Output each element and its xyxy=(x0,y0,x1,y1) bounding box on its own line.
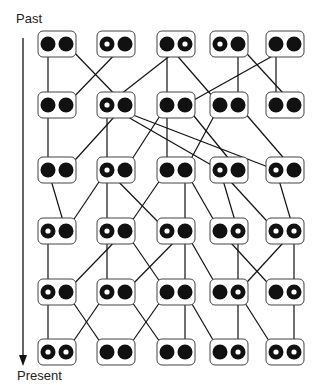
filled-dot-icon xyxy=(178,345,193,360)
filled-dot-icon xyxy=(287,37,302,52)
generation-row-4 xyxy=(38,218,304,244)
filled-dot-icon xyxy=(178,224,193,239)
filled-dot-icon xyxy=(160,98,175,113)
individual-box xyxy=(266,31,304,57)
filled-dot-icon xyxy=(118,163,133,178)
filled-dot-icon xyxy=(213,345,228,360)
ring-hole xyxy=(182,41,187,46)
individual-box xyxy=(157,92,195,118)
ring-hole xyxy=(273,228,278,233)
filled-dot-icon xyxy=(100,345,115,360)
filled-dot-icon xyxy=(269,37,284,52)
filled-dot-icon xyxy=(59,37,74,52)
filled-dot-icon xyxy=(59,285,74,300)
individual-box xyxy=(157,157,195,183)
generation-row-2 xyxy=(38,92,304,118)
individual-box xyxy=(97,218,135,244)
generation-row-5 xyxy=(38,279,304,305)
filled-dot-icon xyxy=(269,98,284,113)
generation-row-1 xyxy=(38,31,304,57)
individual-box xyxy=(210,92,248,118)
individual-box xyxy=(97,31,135,57)
filled-dot-icon xyxy=(287,163,302,178)
individual-box xyxy=(38,218,76,244)
individual-box xyxy=(97,92,135,118)
individual-box xyxy=(97,157,135,183)
individual-box xyxy=(210,31,248,57)
individual-box xyxy=(97,279,135,305)
filled-dot-icon xyxy=(118,224,133,239)
filled-dot-icon xyxy=(160,345,175,360)
filled-dot-icon xyxy=(213,285,228,300)
generation-row-6 xyxy=(38,339,304,365)
individual-box xyxy=(38,92,76,118)
individual-box xyxy=(38,31,76,57)
filled-dot-icon xyxy=(41,37,56,52)
individual-box xyxy=(38,157,76,183)
filled-dot-icon xyxy=(118,285,133,300)
filled-dot-icon xyxy=(178,98,193,113)
individual-box xyxy=(157,279,195,305)
arrowhead-icon xyxy=(19,355,27,366)
filled-dot-icon xyxy=(287,98,302,113)
individual-box xyxy=(266,92,304,118)
individual-box xyxy=(266,279,304,305)
ring-hole xyxy=(291,349,296,354)
ring-hole xyxy=(45,228,50,233)
filled-dot-icon xyxy=(178,285,193,300)
generation-rows xyxy=(38,31,304,365)
ring-hole xyxy=(217,167,222,172)
filled-dot-icon xyxy=(41,98,56,113)
filled-dot-icon xyxy=(178,163,193,178)
edges xyxy=(48,44,294,352)
filled-dot-icon xyxy=(231,37,246,52)
filled-dot-icon xyxy=(231,98,246,113)
individual-box xyxy=(210,339,248,365)
ring-hole xyxy=(273,167,278,172)
filled-dot-icon xyxy=(59,98,74,113)
ring-hole xyxy=(104,228,109,233)
individual-box xyxy=(157,218,195,244)
filled-dot-icon xyxy=(231,163,246,178)
ring-hole xyxy=(217,41,222,46)
filled-dot-icon xyxy=(160,163,175,178)
generation-row-3 xyxy=(38,157,304,183)
ring-hole xyxy=(104,102,109,107)
ring-hole xyxy=(273,349,278,354)
filled-dot-icon xyxy=(118,37,133,52)
ring-hole xyxy=(104,289,109,294)
ring-hole xyxy=(104,167,109,172)
ring-hole xyxy=(45,289,50,294)
filled-dot-icon xyxy=(118,98,133,113)
time-arrow xyxy=(19,38,27,366)
filled-dot-icon xyxy=(41,163,56,178)
individual-box xyxy=(210,157,248,183)
individual-box xyxy=(38,339,76,365)
filled-dot-icon xyxy=(213,98,228,113)
ring-hole xyxy=(291,228,296,233)
ring-hole xyxy=(104,41,109,46)
ring-hole xyxy=(235,228,240,233)
ring-hole xyxy=(235,289,240,294)
ring-hole xyxy=(235,349,240,354)
individual-box xyxy=(266,339,304,365)
lineage-diagram xyxy=(0,0,321,385)
filled-dot-icon xyxy=(59,163,74,178)
individual-box xyxy=(38,279,76,305)
filled-dot-icon xyxy=(269,285,284,300)
ring-hole xyxy=(63,349,68,354)
ring-hole xyxy=(291,289,296,294)
individual-box xyxy=(157,339,195,365)
filled-dot-icon xyxy=(160,285,175,300)
ring-hole xyxy=(45,349,50,354)
individual-box xyxy=(266,157,304,183)
filled-dot-icon xyxy=(160,37,175,52)
individual-box xyxy=(97,339,135,365)
ring-hole xyxy=(164,228,169,233)
filled-dot-icon xyxy=(118,345,133,360)
filled-dot-icon xyxy=(59,224,74,239)
individual-box xyxy=(266,218,304,244)
individual-box xyxy=(210,218,248,244)
individual-box xyxy=(210,279,248,305)
filled-dot-icon xyxy=(213,224,228,239)
